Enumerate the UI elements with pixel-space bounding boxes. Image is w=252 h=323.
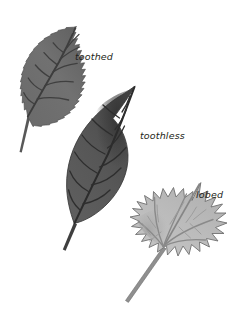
- leaf-label-toothed: toothed: [75, 52, 113, 62]
- toothless-leaf: [63, 86, 135, 251]
- leaf-label-toothless: toothless: [140, 131, 185, 141]
- lobed-leaf: [126, 183, 228, 303]
- toothed-leaf-stem: [20, 116, 31, 153]
- leaf-label-lobed: lobed: [196, 190, 223, 200]
- lobed-leaf-stem: [126, 247, 167, 302]
- leaf-illustration-canvas: [0, 0, 252, 323]
- toothless-leaf-stem: [63, 223, 77, 251]
- toothed-leaf: [20, 27, 86, 153]
- leaf-diagram-figure: toothed toothless lobed: [0, 0, 252, 323]
